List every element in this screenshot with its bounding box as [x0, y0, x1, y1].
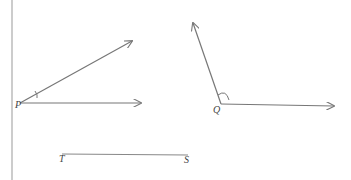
label-t: T — [59, 153, 66, 164]
ray-q-horizontal — [221, 104, 334, 106]
angle-p: P — [14, 41, 141, 110]
geometry-diagram: P Q T S — [0, 0, 351, 180]
segment-ts: T S — [59, 153, 189, 165]
label-s: S — [184, 154, 189, 165]
ray-q-upper — [193, 23, 221, 104]
label-p: P — [14, 99, 21, 110]
segment-line — [62, 154, 188, 155]
label-q: Q — [213, 104, 221, 115]
angle-q: Q — [193, 23, 334, 115]
